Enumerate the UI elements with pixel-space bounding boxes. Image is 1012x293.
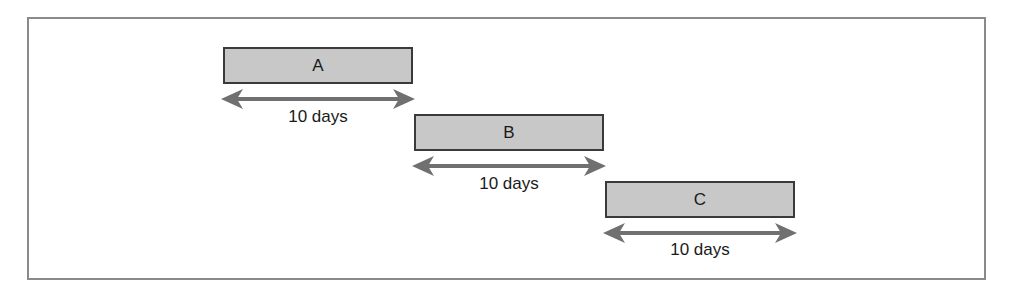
double-arrow-icon	[412, 156, 606, 176]
task-bar-a: A	[223, 47, 413, 84]
task-label: C	[694, 190, 706, 210]
duration-label: 10 days	[221, 107, 415, 127]
task-bar-b: B	[414, 114, 604, 151]
task-bar-c: C	[605, 181, 795, 218]
duration-label: 10 days	[603, 240, 797, 260]
task-label: A	[312, 56, 323, 76]
duration-label: 10 days	[412, 174, 606, 194]
double-arrow-icon	[221, 89, 415, 109]
task-label: B	[503, 123, 514, 143]
